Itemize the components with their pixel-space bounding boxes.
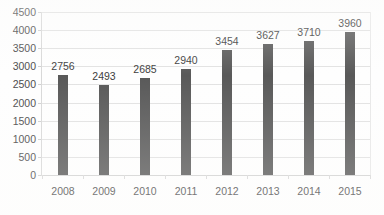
y-axis-tick-mark: [38, 12, 41, 13]
x-axis-tick-mark: [124, 175, 125, 179]
gridline: [42, 157, 370, 158]
y-axis-tick-mark: [38, 103, 41, 104]
x-axis-tick-mark: [370, 175, 371, 179]
gridline: [42, 121, 370, 122]
gridline: [42, 12, 370, 13]
bar-value-label: 2756: [43, 61, 83, 72]
x-axis-tick-label: 2012: [207, 186, 247, 197]
y-axis-tick-mark: [38, 121, 41, 122]
bar-value-label: 3454: [207, 36, 247, 47]
x-axis-tick-label: 2011: [166, 186, 206, 197]
bar: [58, 75, 68, 175]
x-axis-tick-label: 2015: [330, 186, 370, 197]
y-axis-tick-mark: [38, 175, 41, 176]
gridline: [42, 66, 370, 67]
y-axis-line: [41, 12, 42, 176]
bar-value-label: 3627: [248, 30, 288, 41]
x-axis-tick-mark: [206, 175, 207, 179]
gridline: [42, 84, 370, 85]
gridline: [42, 48, 370, 49]
x-axis-tick-label: 2008: [43, 186, 83, 197]
y-axis-tick-label: 3500: [0, 42, 36, 54]
x-axis-tick-mark: [42, 175, 43, 179]
y-axis-tick-mark: [38, 139, 41, 140]
bar-chart: 050010001500200025003000350040004500 275…: [0, 0, 384, 215]
bar: [181, 69, 191, 175]
y-axis-tick-mark: [38, 30, 41, 31]
y-axis-tick-mark: [38, 84, 41, 85]
y-axis-tick-label: 2500: [0, 78, 36, 90]
bar-value-label: 2685: [125, 64, 165, 75]
bar: [345, 32, 355, 175]
y-axis-tick-label: 4500: [0, 6, 36, 18]
bar-value-label: 3710: [289, 27, 329, 38]
bar: [222, 50, 232, 175]
bar-value-label: 3960: [330, 18, 370, 29]
y-axis-tick-mark: [38, 66, 41, 67]
bar: [99, 85, 109, 175]
x-axis-tick-mark: [83, 175, 84, 179]
gridline: [42, 103, 370, 104]
bar: [140, 78, 150, 175]
y-axis-tick-label: 1000: [0, 133, 36, 145]
gridline: [42, 139, 370, 140]
y-axis-tick-label: 1500: [0, 115, 36, 127]
bar-value-label: 2940: [166, 55, 206, 66]
y-axis-tick-label: 500: [0, 151, 36, 163]
y-axis-tick-label: 3000: [0, 60, 36, 72]
bar-value-label: 2493: [84, 71, 124, 82]
x-axis-tick-label: 2013: [248, 186, 288, 197]
y-axis-tick-label: 4000: [0, 24, 36, 36]
x-axis-tick-label: 2010: [125, 186, 165, 197]
y-axis-tick-mark: [38, 157, 41, 158]
x-axis-tick-mark: [329, 175, 330, 179]
bar: [304, 41, 314, 175]
y-axis-tick-label: 0: [0, 169, 36, 181]
x-axis-tick-mark: [288, 175, 289, 179]
y-axis-tick-label: 2000: [0, 97, 36, 109]
x-axis-tick-label: 2009: [84, 186, 124, 197]
x-axis-tick-mark: [247, 175, 248, 179]
x-axis-tick-label: 2014: [289, 186, 329, 197]
bar: [263, 44, 273, 175]
x-axis-tick-mark: [165, 175, 166, 179]
plot-right-border: [370, 12, 371, 176]
y-axis-tick-mark: [38, 48, 41, 49]
